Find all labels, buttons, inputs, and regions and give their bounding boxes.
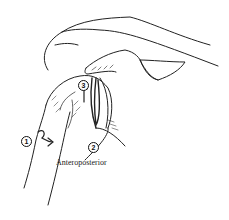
bicipital-groove xyxy=(68,100,73,128)
glenoid-rim xyxy=(85,68,116,74)
ligament-loop-inner xyxy=(95,78,100,125)
acromion-curve xyxy=(44,32,62,70)
marker-2-label: 2 xyxy=(92,144,96,151)
coracoid-base xyxy=(86,50,158,80)
marker-3: 3 xyxy=(78,80,89,91)
view-caption: Anteroposterior xyxy=(56,158,107,167)
acromion-inner xyxy=(55,43,78,45)
clavicle-top-edge xyxy=(62,17,210,45)
shoulder-line-art xyxy=(0,0,229,220)
hatching-glenoid xyxy=(92,65,113,70)
marker-2: 2 xyxy=(88,142,99,153)
marker-3-label: 3 xyxy=(82,82,86,89)
marker-1: 1 xyxy=(21,136,32,147)
marker-1-label: 1 xyxy=(25,138,29,145)
arrow-1-shaft xyxy=(38,131,52,142)
shoulder-diagram: 3 1 2 Anteroposterior xyxy=(0,0,229,220)
coracoid xyxy=(140,60,185,80)
capsule-line xyxy=(100,78,108,128)
